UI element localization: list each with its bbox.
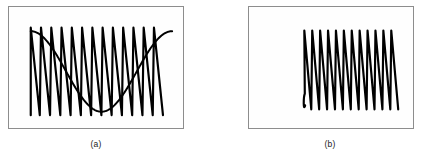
waveform-stroke	[304, 31, 398, 110]
panel-b-plot	[249, 7, 413, 128]
panel-b-caption: (b)	[290, 139, 370, 149]
waveform-stroke	[31, 28, 163, 116]
panel-a-plot	[9, 7, 183, 128]
panel-a-caption: (a)	[56, 139, 136, 149]
panel-a-frame	[8, 6, 184, 129]
figure-root: (a) (b)	[0, 0, 430, 163]
panel-b-frame	[248, 6, 414, 129]
